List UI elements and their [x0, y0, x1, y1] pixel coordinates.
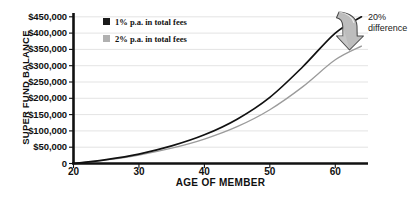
y-tick-label: $200,000: [28, 92, 67, 103]
difference-callout-text: 20% difference: [368, 12, 407, 34]
y-tick-label: $250,000: [28, 76, 67, 87]
legend-item: 1% p.a. in total fees: [103, 15, 187, 28]
legend-swatch-1pct: [103, 18, 110, 25]
legend-swatch-2pct: [103, 35, 110, 42]
legend-item: 2% p.a. in total fees: [103, 32, 187, 45]
chart-container: SUPER FUND BALANCE AGE OF MEMBER 0$50,00…: [0, 0, 416, 202]
y-tick-label: $300,000: [28, 60, 67, 71]
series-line-2pct: [74, 46, 362, 163]
x-tick-label: 40: [184, 166, 224, 177]
callout-line-2: difference: [368, 23, 407, 34]
x-tick-label: 30: [119, 166, 159, 177]
y-tick-label: $150,000: [28, 109, 67, 120]
x-tick-label: 60: [315, 166, 355, 177]
x-tick-label: 50: [250, 166, 290, 177]
y-tick-label: $50,000: [33, 141, 67, 152]
callout-line-1: 20%: [368, 12, 407, 23]
x-tick-label: 20: [54, 166, 94, 177]
y-tick-label: $350,000: [28, 43, 67, 54]
y-tick-label: $100,000: [28, 125, 67, 136]
y-tick-label: $450,000: [28, 11, 67, 22]
legend-label-1pct: 1% p.a. in total fees: [115, 17, 187, 27]
x-axis-title: AGE OF MEMBER: [73, 177, 368, 188]
chart-legend: 1% p.a. in total fees 2% p.a. in total f…: [103, 15, 187, 49]
legend-label-2pct: 2% p.a. in total fees: [115, 34, 187, 44]
y-tick-label: $400,000: [28, 27, 67, 38]
